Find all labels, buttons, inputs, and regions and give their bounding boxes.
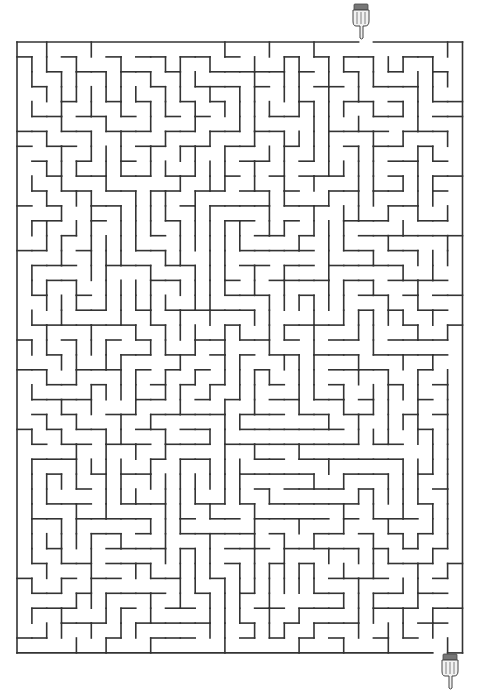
finish-hand-icon — [442, 654, 458, 689]
maze-board[interactable] — [0, 0, 483, 692]
maze-walls — [17, 42, 463, 653]
start-hand-icon — [353, 4, 369, 39]
